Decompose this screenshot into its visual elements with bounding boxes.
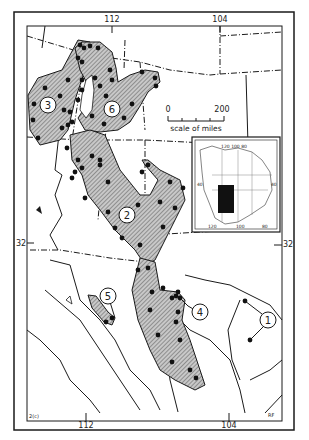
inset-top-labels: 120 100 80 [221,144,247,149]
inset-map: 120 100 80 40 40 120 100 80 [192,137,280,232]
region-label-1: 1 [265,315,271,326]
scale-bar: 0 200 scale of miles [165,105,229,133]
region-4-range [132,258,205,390]
inset-bottom-120: 120 [208,224,217,229]
lon-label-bottom-112: 112 [78,421,93,430]
lon-label-top-112: 112 [104,15,119,24]
scale-caption: scale of miles [170,124,221,133]
region-label-3: 3 [45,100,51,111]
corner-label-right: RF [268,412,274,418]
inset-bottom-100: 100 [236,224,245,229]
inset-study-area [218,185,234,213]
region-label-5: 5 [105,291,111,302]
corner-label-left: 2(c) [29,413,39,419]
region-label-4: 4 [197,307,203,318]
distribution-map: 112 104 112 104 32 32 [0,0,309,440]
inset-bottom-80: 80 [262,224,268,229]
region-label-6: 6 [109,104,115,115]
scale-start-label: 0 [165,105,170,114]
lat-label-left-32: 32 [16,239,26,248]
region-label-2: 2 [124,210,130,221]
lon-label-top-104: 104 [212,15,227,24]
inset-lat-right: 40 [271,182,277,187]
lat-label-right-32: 32 [283,240,293,249]
lon-label-bottom-104: 104 [221,421,236,430]
inset-lat-left: 40 [197,182,203,187]
scale-end-label: 200 [214,105,229,114]
